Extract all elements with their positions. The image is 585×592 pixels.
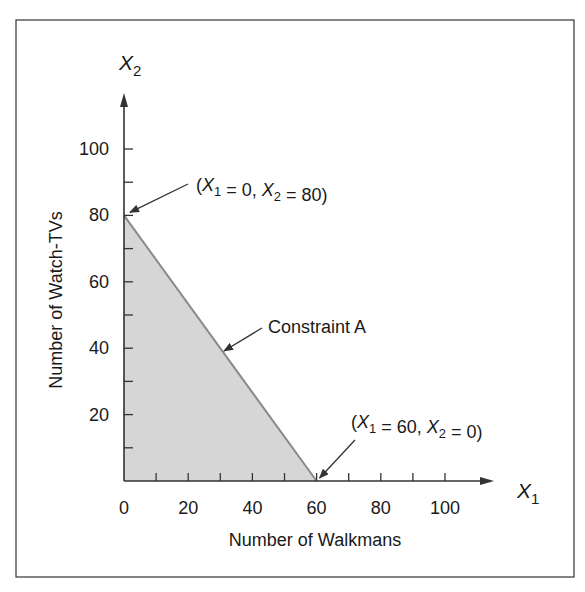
- figure-frame: [16, 20, 574, 577]
- y-axis-label: Number of Watch-TVs: [46, 211, 66, 388]
- lp-constraint-chart: 02040608010020406080100 X2 X1 Number of …: [0, 0, 585, 592]
- x-tick-label: 80: [371, 498, 391, 518]
- x-tick-label: 40: [242, 498, 262, 518]
- y-tick-label: 40: [89, 338, 109, 358]
- constraint-a-label: Constraint A: [268, 317, 366, 337]
- x-tick-label: 60: [307, 498, 327, 518]
- x-axis-label: Number of Walkmans: [229, 530, 401, 550]
- y-tick-label: 20: [89, 405, 109, 425]
- y-tick-label: 60: [89, 272, 109, 292]
- y-tick-label: 100: [79, 139, 109, 159]
- x-tick-label: 0: [119, 498, 129, 518]
- x-tick-label: 100: [430, 498, 460, 518]
- x-tick-label: 20: [178, 498, 198, 518]
- y-tick-label: 80: [89, 205, 109, 225]
